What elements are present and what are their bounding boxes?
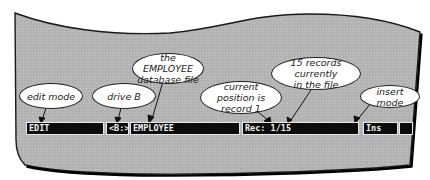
callout-employee-file-line1: the EMPLOYEE [137,52,199,74]
callout-records-count-line2: in the file [294,79,339,90]
callout-edit-mode: edit mode [19,83,83,109]
status-blank [400,123,412,134]
status-insert: Ins [364,123,397,134]
callout-records-count-line1: 15 records currently [276,57,356,79]
callout-drive-b: drive B [92,83,156,109]
callout-current-position: current position is record 1 [200,81,282,114]
callout-insert-mode: insert mode [360,85,420,108]
dbase-status-bar: EDIT <B:> EMPLOYEE Rec: 1/15 Ins [0,123,430,134]
callout-insert-mode-text: insert mode [365,86,415,108]
status-drive: <B:> [107,123,128,134]
callout-drive-b-text: drive B [107,91,141,102]
callout-employee-file-line2: database file [137,74,199,85]
callout-current-position-line1: current position is [205,81,277,103]
callout-employee-file: the EMPLOYEE database file [132,53,204,84]
status-mode: EDIT [27,123,103,134]
callout-current-position-line2: record 1 [221,103,261,114]
status-file: EMPLOYEE [131,123,239,134]
status-record: Rec: 1/15 [243,123,358,134]
callout-edit-mode-text: edit mode [27,91,75,102]
callout-records-count: 15 records currently in the file [271,57,361,90]
